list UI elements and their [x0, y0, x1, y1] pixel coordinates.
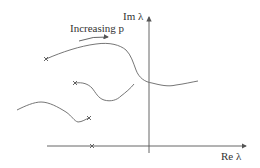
middle-branch-curve: [75, 83, 134, 101]
im-axis-label: Im λ: [123, 10, 144, 22]
increasing-p-label: Increasing p: [70, 22, 125, 34]
upper-branch-curve: [46, 43, 198, 85]
re-axis-label: Re λ: [221, 150, 242, 162]
root-locus-diagram: Im λ Re λ Increasing p: [0, 0, 260, 168]
pole-marker-lower: [87, 116, 91, 120]
lower-branch-curve: [17, 102, 89, 122]
pole-marker-upper: [44, 57, 48, 61]
direction-arrow: [79, 37, 108, 41]
